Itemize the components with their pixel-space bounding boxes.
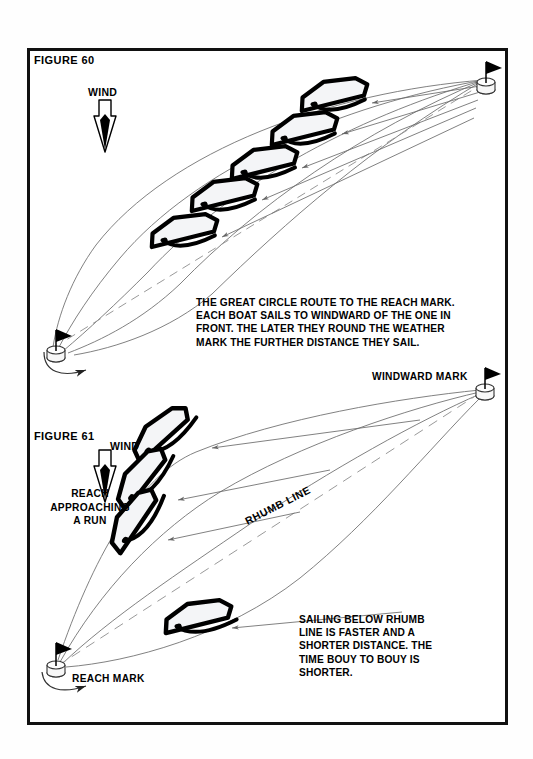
caption-line: MARK THE FURTHER DISTANCE THEY SAIL. — [196, 336, 496, 349]
figure60-caption: THE GREAT CIRCLE ROUTE TO THE REACH MARK… — [196, 296, 496, 349]
reach-run-line: A RUN — [38, 514, 142, 528]
caption-line: SHORTER DISTANCE. THE — [299, 639, 489, 652]
caption-line: SAILING BELOW RHUMB — [299, 613, 489, 626]
caption-line: SHORTER. — [299, 666, 489, 679]
windward-mark-label: WINDWARD MARK — [372, 371, 468, 382]
caption-line: THE GREAT CIRCLE ROUTE TO THE REACH MARK… — [196, 296, 496, 309]
page-canvas: FIGURE 60 WIND THE GREAT CIRCLE ROUTE TO… — [0, 0, 533, 759]
reach-run-line: REACH — [38, 487, 142, 501]
reach-run-line: APPROACHING — [38, 501, 142, 515]
figure61-label: FIGURE 61 — [34, 430, 94, 442]
caption-line: TIME BOUY TO BOUY IS — [299, 653, 489, 666]
figure61-caption: SAILING BELOW RHUMB LINE IS FASTER AND A… — [299, 613, 489, 679]
figure60-label: FIGURE 60 — [34, 54, 94, 66]
wind-label-61: WIND — [110, 440, 139, 452]
caption-line: FRONT. THE LATER THEY ROUND THE WEATHER — [196, 322, 496, 335]
caption-line: EACH BOAT SAILS TO WINDWARD OF THE ONE I… — [196, 309, 496, 322]
reach-approaching-run-label: REACH APPROACHING A RUN — [38, 487, 142, 528]
reach-mark-label: REACH MARK — [72, 673, 145, 684]
caption-line: LINE IS FASTER AND A — [299, 626, 489, 639]
wind-label-60: WIND — [88, 86, 117, 98]
